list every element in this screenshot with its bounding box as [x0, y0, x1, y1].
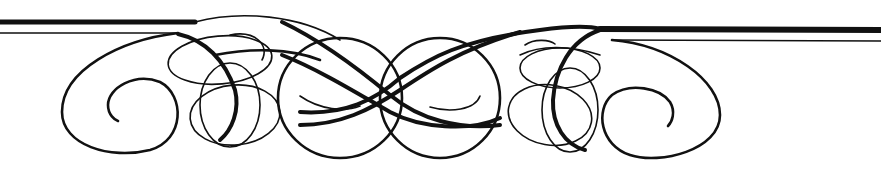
left-spiral [62, 16, 340, 153]
flourish-ornament-icon [0, 0, 881, 173]
right-double-rule [600, 29, 881, 41]
flourish-divider: Calligraphic flourish divider with horiz… [0, 0, 881, 173]
right-spiral [503, 30, 720, 158]
left-double-rule [0, 22, 195, 33]
